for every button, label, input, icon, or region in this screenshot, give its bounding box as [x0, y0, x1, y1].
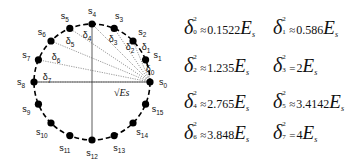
relation: ≈	[289, 98, 295, 110]
energy-subscript: s	[341, 104, 344, 113]
point-label-s10: s10	[36, 127, 48, 139]
constellation-point-s8	[30, 78, 37, 85]
energy-symbol: E	[329, 91, 341, 112]
value: 0.1522	[207, 23, 240, 37]
energy-symbol: E	[240, 17, 252, 38]
constellation-point-s10	[47, 119, 54, 126]
energy-subscript: s	[335, 30, 338, 39]
point-label-s14: s14	[136, 127, 148, 139]
equation-delta5: δ25≈3.4142Es	[273, 90, 344, 113]
point-label-s0: s0	[159, 77, 168, 89]
index: 0	[193, 28, 197, 36]
point-label-s6: s6	[38, 27, 47, 39]
power: 2	[193, 89, 197, 97]
point-label-s9: s9	[22, 104, 31, 116]
energy-symbol: E	[234, 55, 246, 76]
energy-symbol: E	[234, 122, 246, 143]
energy-symbol: E	[303, 55, 315, 76]
delta-symbol: δ	[184, 90, 193, 112]
relation: ≈	[200, 62, 206, 74]
distance-label-δ3: δ3	[109, 34, 118, 46]
energy-subscript: s	[246, 135, 249, 144]
delta-symbol: δ	[184, 16, 193, 38]
relation: ≈	[200, 98, 206, 110]
constellation-point-s7	[35, 56, 42, 63]
energy-subscript: s	[314, 135, 317, 144]
index: 7	[282, 133, 286, 141]
point-label-s3: s3	[115, 11, 124, 23]
distance-line-s6	[51, 41, 150, 82]
value: 0.586	[296, 23, 323, 37]
constellation-point-s13	[111, 132, 118, 139]
relation: ≈	[200, 129, 206, 141]
power: 2	[193, 120, 197, 128]
point-label-s11: s11	[59, 143, 71, 155]
constellation-point-s6	[47, 37, 54, 44]
delta-symbol: δ	[273, 16, 282, 38]
distance-label-δ1: δ1	[142, 42, 151, 54]
constellation-point-s9	[35, 101, 42, 108]
point-label-s15: s15	[152, 104, 164, 116]
point-label-s1: s1	[154, 50, 163, 62]
power: 2	[282, 53, 286, 61]
constellation-point-s4	[88, 20, 95, 27]
constellation-point-s11	[66, 132, 73, 139]
constellation-point-s5	[66, 25, 73, 32]
point-label-s4: s4	[88, 6, 97, 18]
equation-delta4: δ24≈2.765Es	[184, 90, 249, 113]
delta-symbol: δ	[273, 121, 282, 143]
distance-label-δ5: δ5	[66, 36, 75, 48]
delta-symbol: δ	[184, 121, 193, 143]
power: 2	[282, 120, 286, 128]
power: 2	[193, 53, 197, 61]
energy-symbol: E	[323, 17, 335, 38]
constellation-point-s15	[142, 101, 149, 108]
delta-symbol: δ	[273, 54, 282, 76]
psk-constellation-diagram: s0s1s2s3s4s5s6s7s8s9s10s11s12s13s14s15δ0…	[0, 0, 180, 162]
value: 2.765	[207, 97, 234, 111]
point-label-s2: s2	[138, 27, 147, 39]
value: 1.235	[207, 61, 234, 75]
point-label-s5: s5	[61, 11, 70, 23]
distance-label-δ0: δ0	[146, 64, 155, 76]
point-label-s12: s12	[86, 148, 98, 160]
index: 1	[282, 28, 286, 36]
relation: =	[289, 62, 295, 74]
relation: ≈	[200, 24, 206, 36]
energy-symbol: E	[234, 91, 246, 112]
equation-delta2: δ22≈1.235Es	[184, 54, 249, 77]
energy-subscript: s	[246, 104, 249, 113]
equation-delta6: δ26≈3.848Es	[184, 121, 249, 144]
constellation-point-s0	[146, 78, 153, 85]
constellation-point-s3	[111, 25, 118, 32]
distance-label-δ6: δ6	[52, 52, 61, 64]
delta-symbol: δ	[184, 54, 193, 76]
equation-delta3: δ23=2Es	[273, 54, 317, 77]
constellation-point-s1	[142, 56, 149, 63]
distance-label-δ4: δ4	[83, 30, 92, 42]
energy-subscript: s	[252, 30, 255, 39]
value: 3.848	[207, 128, 234, 142]
point-label-s8: s8	[17, 77, 26, 89]
power: 2	[282, 89, 286, 97]
power: 2	[193, 15, 197, 23]
relation: ≈	[289, 24, 295, 36]
energy-subscript: s	[246, 68, 249, 77]
point-label-s13: s13	[113, 143, 125, 155]
index: 5	[282, 102, 286, 110]
equation-delta1: δ21≈0.586Es	[273, 16, 338, 39]
relation: =	[289, 129, 295, 141]
index: 3	[282, 66, 286, 74]
distance-label-δ7: δ7	[43, 72, 52, 84]
energy-symbol: E	[303, 122, 315, 143]
delta-symbol: δ	[273, 90, 282, 112]
index: 6	[193, 133, 197, 141]
constellation-point-s14	[129, 119, 136, 126]
index: 4	[193, 102, 197, 110]
constellation-point-s12	[88, 136, 95, 143]
index: 2	[193, 66, 197, 74]
equation-delta7: δ27=4Es	[273, 121, 317, 144]
point-label-s7: s7	[22, 50, 31, 62]
energy-subscript: s	[314, 68, 317, 77]
value: 3.4142	[296, 97, 329, 111]
